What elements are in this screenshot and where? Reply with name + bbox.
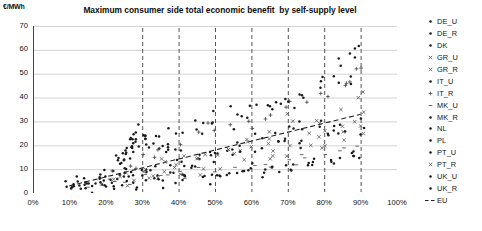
legend-item-it-r[interactable]: IT_R [424,87,482,99]
legend-item-de-u[interactable]: DE_U [424,16,482,28]
y-tick-label: 40 [6,93,28,101]
legend-item-dk[interactable]: DK [424,40,482,52]
x-tick-label: 30% [125,199,159,207]
legend-label: UK_R [437,184,457,193]
legend-item-uk-u[interactable]: UK_U [424,171,482,183]
legend-item-pt-u[interactable]: PT_U [424,147,482,159]
legend-label: NL [437,124,447,133]
dot-marker-icon [424,171,437,182]
y-tick-label: 0 [6,189,28,197]
legend-label: DE_R [437,29,457,38]
x-tick-label: 100% [380,199,414,207]
legend-item-pl[interactable]: PL [424,135,482,147]
y-tick-label: 20 [6,141,28,149]
plus-marker-icon [424,88,437,99]
dot-marker-icon [424,112,437,123]
x-tick-label: 10% [52,199,86,207]
legend-item-gr-u[interactable]: GR_U [424,52,482,64]
x-tick-label: 80% [307,199,341,207]
dot-marker-icon [424,147,437,158]
dot-marker-icon [424,123,437,134]
x-tick-label: 20% [89,199,123,207]
y-tick-label: 60 [6,45,28,53]
legend-item-de-r[interactable]: DE_R [424,28,482,40]
x-tick-label: 60% [234,199,268,207]
dot-marker-icon [424,76,437,87]
x-tick-label: 90% [344,199,378,207]
chart-title: Maximum consumer side total economic ben… [60,5,380,15]
dot-marker-icon [424,28,437,39]
dot-marker-icon [424,135,437,146]
legend-item-gr-r[interactable]: GR_R [424,64,482,76]
legend-label: PL [437,136,446,145]
x-tick-label: 50% [198,199,232,207]
legend-item-pt-r[interactable]: PT_R [424,159,482,171]
cross-marker-icon [424,159,437,170]
legend-label: PT_R [437,160,456,169]
x-tick-label: 70% [271,199,305,207]
legend-label: IT_U [437,77,453,86]
dot-marker-icon [424,16,437,27]
plot-area [33,26,397,193]
legend-item-mk-u[interactable]: MK_U [424,99,482,111]
legend-label: MK_R [437,113,458,122]
legend-label: DK [437,41,447,50]
legend-label: UK_U [437,172,457,181]
legend-item-nl[interactable]: NL [424,123,482,135]
y-tick-label: 30 [6,117,28,125]
cross-marker-icon [424,52,437,63]
dash-marker-icon [424,100,437,111]
cross-marker-icon [424,64,437,75]
legend-item-eu[interactable]: EU [424,194,482,206]
chart-legend: DE_UDE_RDKGR_UGR_RIT_UIT_RMK_UMK_RNLPLPT… [424,16,482,206]
y-tick-label: 10 [6,165,28,173]
dot-marker-icon [424,183,437,194]
legend-label: PT_U [437,148,456,157]
legend-item-mk-r[interactable]: MK_R [424,111,482,123]
dashed-line-marker-icon [424,195,437,206]
legend-label: GR_R [437,65,458,74]
legend-label: EU [437,196,447,205]
x-tick-label: 40% [162,199,196,207]
legend-item-uk-r[interactable]: UK_R [424,182,482,194]
chart-root: €/MWh Maximum consumer side total econom… [0,0,482,231]
x-tick-label: 0% [16,199,50,207]
y-tick-label: 70 [6,22,28,30]
plot-svg [33,26,397,193]
y-axis-unit-label: €/MWh [3,3,25,10]
legend-label: GR_U [437,53,458,62]
legend-label: IT_R [437,89,453,98]
dot-marker-icon [424,40,437,51]
legend-label: MK_U [437,101,458,110]
legend-item-it-u[interactable]: IT_U [424,75,482,87]
y-tick-label: 50 [6,69,28,77]
legend-label: DE_U [437,17,457,26]
